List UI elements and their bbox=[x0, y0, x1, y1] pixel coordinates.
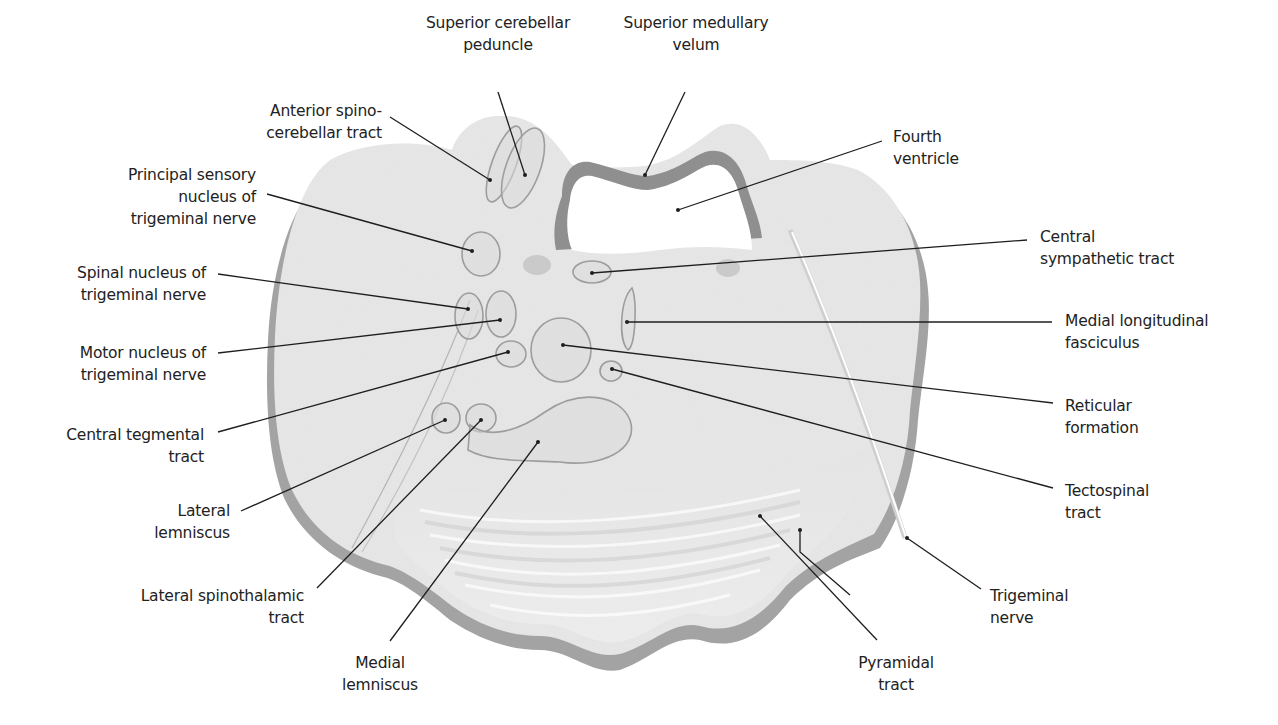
principal-sensory-nucleus-outline bbox=[462, 232, 500, 276]
label-superior-cerebellar-peduncle: Superior cerebellar peduncle bbox=[410, 12, 586, 56]
lateral-lemniscus-outline bbox=[432, 403, 460, 433]
leader-trigeminal-nerve bbox=[907, 538, 981, 589]
motor-nucleus-outline bbox=[486, 291, 516, 337]
label-pyramidal-tract: Pyramidal tract bbox=[846, 652, 946, 696]
label-reticular-formation: Reticular formation bbox=[1065, 395, 1139, 439]
label-lateral-spinothalamic-tract: Lateral spinothalamic tract bbox=[100, 585, 304, 629]
label-anterior-spinocerebellar-tract: Anterior spino- cerebellar tract bbox=[210, 100, 382, 144]
label-central-sympathetic-tract: Central sympathetic tract bbox=[1040, 226, 1174, 270]
label-central-tegmental-tract: Central tegmental tract bbox=[20, 424, 204, 468]
reticular-formation-outline bbox=[531, 318, 591, 382]
label-tectospinal-tract: Tectospinal tract bbox=[1065, 480, 1149, 524]
shading-left-floor bbox=[523, 255, 551, 275]
label-fourth-ventricle: Fourth ventricle bbox=[893, 126, 959, 170]
label-lateral-lemniscus: Lateral lemniscus bbox=[60, 500, 230, 544]
label-principal-sensory-nucleus: Principal sensory nucleus of trigeminal … bbox=[60, 164, 256, 230]
label-medial-longitudinal-fasciculus: Medial longitudinal fasciculus bbox=[1065, 310, 1208, 354]
label-motor-nucleus-trigeminal: Motor nucleus of trigeminal nerve bbox=[20, 342, 206, 386]
spinal-nucleus-outline bbox=[455, 293, 483, 339]
label-trigeminal-nerve: Trigeminal nerve bbox=[990, 585, 1068, 629]
label-superior-medullary-velum: Superior medullary velum bbox=[608, 12, 784, 56]
label-medial-lemniscus: Medial lemniscus bbox=[330, 652, 430, 696]
label-spinal-nucleus-trigeminal: Spinal nucleus of trigeminal nerve bbox=[20, 262, 206, 306]
